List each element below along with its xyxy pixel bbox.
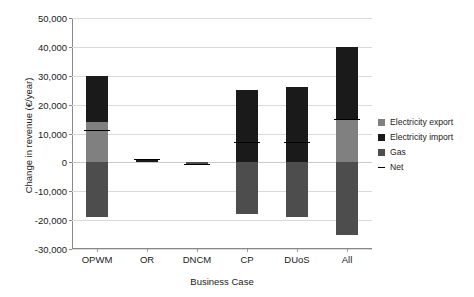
- bar-segment[interactable]: [336, 119, 358, 162]
- y-tick-label: 50,000: [38, 13, 67, 24]
- y-tick-label: 0: [62, 157, 67, 168]
- bar-group[interactable]: All: [336, 18, 358, 249]
- x-tick-mark: [297, 249, 298, 252]
- gridline: [72, 220, 372, 221]
- legend-swatch-icon: [378, 149, 385, 156]
- gridline: [72, 162, 372, 163]
- legend-label: Net: [390, 163, 403, 172]
- legend-item[interactable]: Electricity import: [378, 130, 453, 145]
- bar-group[interactable]: DNCM: [186, 18, 208, 249]
- gridline: [72, 47, 372, 48]
- gridline: [72, 18, 372, 19]
- bar-segment[interactable]: [86, 162, 108, 216]
- net-marker: [184, 164, 210, 165]
- gridline: [72, 105, 372, 106]
- y-tick-mark: [69, 220, 72, 221]
- gridline: [72, 76, 372, 77]
- y-tick-mark: [69, 162, 72, 163]
- net-marker: [84, 130, 110, 131]
- net-marker: [134, 159, 160, 160]
- y-tick-mark: [69, 47, 72, 48]
- x-tick-mark: [197, 249, 198, 252]
- plot-area: 50,00040,00030,00020,00010,0000-10,000-2…: [72, 18, 372, 249]
- chart-figure: Change in revenue (€/year) 50,00040,0003…: [0, 0, 474, 297]
- legend-item[interactable]: Electricity export: [378, 115, 453, 130]
- y-tick-label: -10,000: [35, 186, 67, 197]
- y-tick-label: 20,000: [38, 99, 67, 110]
- gridline: [72, 191, 372, 192]
- bar-segment[interactable]: [336, 47, 358, 119]
- y-tick-label: 30,000: [38, 70, 67, 81]
- bar-segment[interactable]: [236, 162, 258, 214]
- legend-label: Electricity import: [390, 133, 453, 142]
- bar-group[interactable]: DUoS: [286, 18, 308, 249]
- legend-label: Electricity export: [390, 118, 453, 127]
- y-tick-label: -20,000: [35, 215, 67, 226]
- y-tick-mark: [69, 76, 72, 77]
- legend-swatch-icon: [378, 119, 385, 126]
- net-marker: [284, 142, 310, 143]
- x-axis-title: Business Case: [72, 276, 372, 287]
- net-marker: [234, 142, 260, 143]
- legend-swatch-icon: [378, 134, 385, 141]
- y-tick-mark: [69, 249, 72, 250]
- legend-item[interactable]: Gas: [378, 145, 453, 160]
- y-tick-label: 40,000: [38, 41, 67, 52]
- legend-label: Gas: [390, 148, 406, 157]
- y-tick-mark: [69, 134, 72, 135]
- y-tick-mark: [69, 105, 72, 106]
- chart-legend: Electricity exportElectricity importGasN…: [378, 115, 453, 175]
- bar-group[interactable]: OR: [136, 18, 158, 249]
- x-tick-mark: [347, 249, 348, 252]
- x-tick-mark: [247, 249, 248, 252]
- bar-segment[interactable]: [336, 162, 358, 234]
- bar-segment[interactable]: [286, 87, 308, 162]
- x-tick-mark: [97, 249, 98, 252]
- y-tick-label: 10,000: [38, 128, 67, 139]
- net-marker: [334, 119, 360, 120]
- bar-group[interactable]: OPWM: [86, 18, 108, 249]
- x-tick-label: All: [317, 254, 377, 265]
- y-tick-mark: [69, 191, 72, 192]
- bar-segment[interactable]: [86, 122, 108, 163]
- bar-group[interactable]: CP: [236, 18, 258, 249]
- y-tick-mark: [69, 18, 72, 19]
- gridline: [72, 134, 372, 135]
- legend-item[interactable]: Net: [378, 160, 453, 175]
- gridline: [72, 249, 372, 250]
- bar-segment[interactable]: [286, 162, 308, 216]
- x-tick-mark: [147, 249, 148, 252]
- legend-line-icon: [378, 167, 385, 168]
- bar-segment[interactable]: [86, 76, 108, 122]
- y-axis-title: Change in revenue (€/year): [23, 31, 34, 241]
- y-tick-label: -30,000: [35, 244, 67, 255]
- bar-segment[interactable]: [236, 90, 258, 162]
